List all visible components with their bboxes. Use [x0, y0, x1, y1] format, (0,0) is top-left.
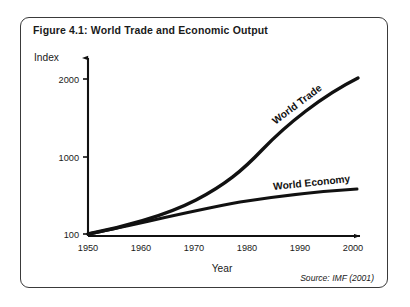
x-tick-label-1950: 1950	[78, 243, 98, 253]
x-tick-label-1980: 1980	[237, 243, 257, 253]
x-tick-label-2000: 2000	[343, 243, 363, 253]
x-axis-title: Year	[212, 263, 233, 274]
source-note: Source: IMF (2001)	[300, 273, 374, 283]
y-tick-label-100: 100	[64, 230, 79, 240]
y-tick-label-2000: 2000	[59, 75, 79, 85]
series-line-world-trade	[88, 78, 358, 234]
y-axis-title: Index	[34, 52, 59, 63]
x-tick-label-1990: 1990	[290, 243, 310, 253]
x-tick-label-1960: 1960	[131, 243, 151, 253]
chart-plot-area: 2000 1000 100 Index 1950 1960 1970 1980 …	[0, 0, 410, 307]
x-tick-label-1970: 1970	[184, 243, 204, 253]
series-line-world-economy	[88, 189, 357, 234]
y-tick-label-1000: 1000	[59, 153, 79, 163]
